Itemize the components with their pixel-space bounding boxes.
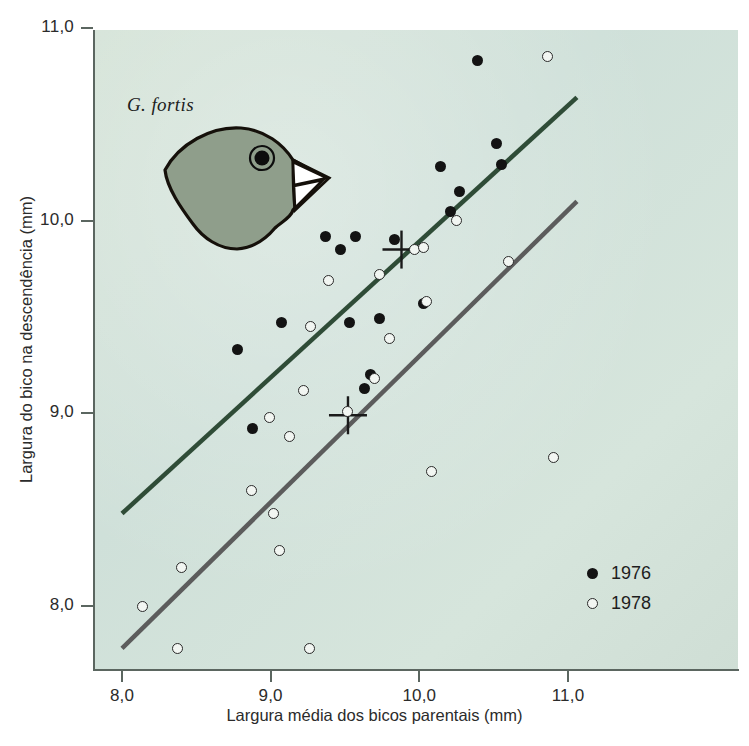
x-tick-10,0 <box>418 671 420 682</box>
data-point-1978 <box>172 643 183 654</box>
data-point-1978 <box>264 412 275 423</box>
x-tick-9,0 <box>270 671 272 682</box>
legend-label-1976: 1976 <box>611 563 651 584</box>
legend-item-1978: 1978 <box>587 588 651 618</box>
data-point-1976 <box>389 234 400 245</box>
data-point-1978 <box>374 269 385 280</box>
data-point-1978 <box>503 256 514 267</box>
x-tick-label-9,0: 9,0 <box>259 686 283 706</box>
1978-line <box>122 201 577 648</box>
y-tick-label-11,0: 11,0 <box>0 17 74 37</box>
data-point-1978 <box>176 562 187 573</box>
plot-area: G. fortis 1976 1978 <box>93 30 738 670</box>
x-tick-label-11,0: 11,0 <box>552 686 585 706</box>
data-point-1978 <box>246 485 257 496</box>
legend-marker-open-circle-icon <box>587 598 598 609</box>
x-tick-label-8,0: 8,0 <box>110 686 134 706</box>
y-tick-label-10,0: 10,0 <box>0 210 74 230</box>
data-point-1976 <box>472 55 483 66</box>
data-point-1976 <box>435 161 446 172</box>
y-tick-10,0 <box>81 220 93 222</box>
y-tick-label-8,0: 8,0 <box>0 595 74 615</box>
data-point-1978 <box>298 385 309 396</box>
x-axis-line <box>93 669 739 671</box>
data-point-1976 <box>320 231 331 242</box>
x-tick-label-10,0: 10,0 <box>402 686 436 706</box>
y-axis-title: Largura do bico na descendência (mm) <box>17 100 36 580</box>
y-axis-line <box>93 30 95 671</box>
y-tick-11,0 <box>81 27 93 29</box>
y-tick-label-9,0: 9,0 <box>0 402 74 422</box>
y-tick-label-wrap: 10,0 <box>0 210 74 230</box>
data-point-1976 <box>276 317 287 328</box>
data-point-1978 <box>426 466 437 477</box>
data-point-1978 <box>304 643 315 654</box>
y-tick-8,0 <box>81 605 93 607</box>
y-tick-label-wrap: 8,0 <box>0 595 74 615</box>
x-axis-title: Largura média dos bicos parentais (mm) <box>0 706 749 725</box>
data-point-1978 <box>137 601 148 612</box>
data-point-1976 <box>350 231 361 242</box>
data-point-1978 <box>274 545 285 556</box>
x-tick-11,0 <box>567 671 569 682</box>
legend-marker-filled-circle-icon <box>587 568 598 579</box>
data-point-1978 <box>323 275 334 286</box>
data-point-1978 <box>384 333 395 344</box>
x-tick-8,0 <box>121 671 123 682</box>
1976-line <box>122 97 577 513</box>
y-tick-label-wrap: 9,0 <box>0 402 74 422</box>
chart-root: G. fortis 1976 1978 8,09,0 <box>0 0 749 746</box>
data-point-1976 <box>496 159 507 170</box>
data-point-1976 <box>359 383 370 394</box>
data-point-1978 <box>548 452 559 463</box>
legend: 1976 1978 <box>587 558 651 618</box>
y-tick-label-wrap: 11,0 <box>0 17 74 37</box>
legend-item-1976: 1976 <box>587 558 651 588</box>
legend-label-1978: 1978 <box>611 593 651 614</box>
y-tick-9,0 <box>81 412 93 414</box>
